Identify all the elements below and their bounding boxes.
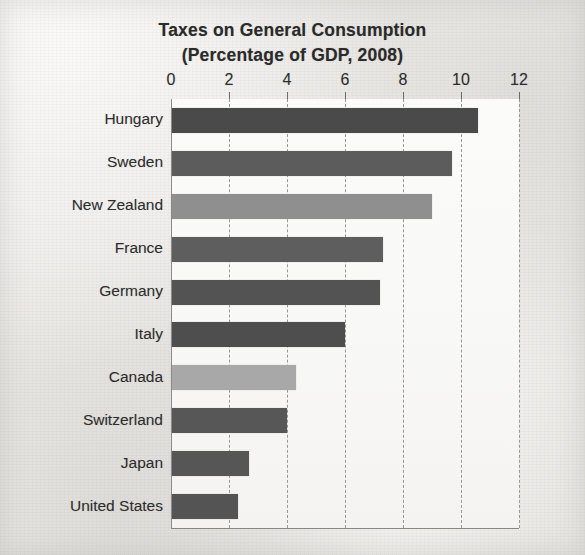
bar-united-states xyxy=(171,494,238,519)
x-tickmark-6 xyxy=(345,92,346,99)
x-tick-label-12: 12 xyxy=(510,70,528,90)
category-label-france: France xyxy=(0,239,163,257)
gridline-10 xyxy=(461,99,462,528)
chart-subtitle: (Percentage of GDP, 2008) xyxy=(0,43,585,68)
category-label-germany: Germany xyxy=(0,282,163,300)
x-tick-label-8: 8 xyxy=(399,70,408,90)
category-label-sweden: Sweden xyxy=(0,153,163,171)
bar-italy xyxy=(171,322,345,347)
category-label-japan: Japan xyxy=(0,454,163,472)
bar-japan xyxy=(171,451,249,476)
x-tick-label-6: 6 xyxy=(341,70,350,90)
x-tickmark-12 xyxy=(519,92,520,99)
x-tickmark-2 xyxy=(229,92,230,99)
bar-switzerland xyxy=(171,408,287,433)
x-tick-label-4: 4 xyxy=(283,70,292,90)
category-label-united-states: United States xyxy=(0,497,163,515)
category-label-new-zealand: New Zealand xyxy=(0,196,163,214)
category-label-italy: Italy xyxy=(0,325,163,343)
chart-title: Taxes on General Consumption xyxy=(0,18,585,43)
bar-canada xyxy=(171,365,296,390)
x-tickmark-8 xyxy=(403,92,404,99)
bar-new-zealand xyxy=(171,194,432,219)
plot-area xyxy=(171,99,519,528)
x-axis-tick-labels: 024681012 xyxy=(171,70,519,92)
x-tickmark-10 xyxy=(461,92,462,99)
x-tick-label-2: 2 xyxy=(225,70,234,90)
bar-sweden xyxy=(171,151,452,176)
bar-france xyxy=(171,237,383,262)
x-tick-label-0: 0 xyxy=(167,70,176,90)
bar-germany xyxy=(171,280,380,305)
chart-title-block: Taxes on General Consumption (Percentage… xyxy=(0,18,585,68)
x-axis-line xyxy=(171,528,519,529)
bar-chart-figure: Taxes on General Consumption (Percentage… xyxy=(0,0,585,555)
gridline-12 xyxy=(519,99,520,528)
x-tick-label-10: 10 xyxy=(452,70,470,90)
bar-hungary xyxy=(171,108,478,133)
category-label-hungary: Hungary xyxy=(0,110,163,128)
category-label-switzerland: Switzerland xyxy=(0,411,163,429)
x-tickmark-4 xyxy=(287,92,288,99)
y-axis-line xyxy=(171,99,172,528)
category-label-canada: Canada xyxy=(0,368,163,386)
